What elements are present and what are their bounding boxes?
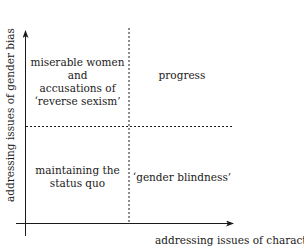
quadrant-top-left-line-3: accusations of [27,82,128,95]
quadrant-bottom-left-line-1: maintaining the [27,164,128,177]
quadrant-bottom-right: ‘gender blindness’ [130,171,234,184]
x-axis-label: addressing issues of character [155,234,301,247]
y-axis-label: addressing issues of gender bias [4,28,16,202]
quadrant-top-left: miserable women and accusations of ‘reve… [27,56,128,108]
diagram-axes-and-dividers [0,0,304,252]
quadrant-bottom-right-line-1: ‘gender blindness’ [130,171,234,184]
quadrant-top-left-line-4: ‘reverse sexism’ [27,95,128,108]
y-axis-label-container: addressing issues of gender bias [2,0,18,230]
quadrant-top-left-line-2: and [27,69,128,82]
quadrant-bottom-left: maintaining the status quo [27,164,128,190]
quadrant-diagram: addressing issues of gender bias address… [0,0,304,252]
quadrant-top-right: progress [130,69,234,82]
quadrant-top-right-line-1: progress [130,69,234,82]
quadrant-top-left-line-1: miserable women [27,56,128,69]
quadrant-bottom-left-line-2: status quo [27,177,128,190]
